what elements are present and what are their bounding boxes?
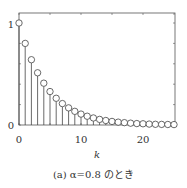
stem-marker [34, 70, 40, 76]
stem-marker [78, 111, 84, 117]
stem-marker [28, 57, 34, 63]
stem-marker [127, 120, 133, 126]
stem-marker [90, 115, 96, 121]
stem-marker [109, 118, 115, 124]
stem-marker [103, 117, 109, 123]
stem-marker [96, 116, 102, 122]
stem-marker [84, 113, 90, 119]
stem-marker [47, 88, 53, 94]
plot-frame [19, 13, 175, 125]
stem-marker [140, 121, 146, 127]
ytick-label-1: 1 [8, 19, 14, 30]
stem-marker [121, 119, 127, 125]
stem-marker [115, 119, 121, 125]
figure-caption: (a) α=0.8 のとき [0, 166, 187, 181]
xtick-label-10: 10 [75, 134, 88, 145]
stem-marker [158, 121, 164, 127]
stem-marker [59, 100, 65, 106]
stem-marker [41, 80, 47, 86]
stem-marker [65, 105, 71, 111]
ytick-label-0: 0 [8, 120, 14, 131]
stem-marker [53, 95, 59, 101]
stem-marker [165, 121, 171, 127]
stem-marker [72, 108, 78, 114]
stem-marker [22, 40, 28, 46]
stem-marker [146, 121, 152, 127]
stem-marker [16, 20, 22, 26]
stems [16, 20, 177, 128]
xtick-label-20: 20 [137, 134, 150, 145]
stem-plot: 1 0 0 10 20 k [0, 0, 187, 188]
stem-marker [171, 121, 177, 127]
xtick-label-0: 0 [16, 134, 22, 145]
x-axis-label: k [94, 149, 100, 160]
stem-marker [134, 120, 140, 126]
stem-marker [152, 121, 158, 127]
